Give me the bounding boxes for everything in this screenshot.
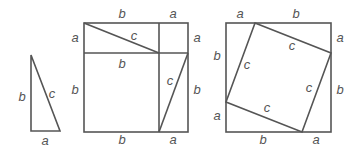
label-hyp-top-c: c (131, 28, 138, 43)
label-right-b: b (336, 82, 343, 97)
label-inner-c-left: c (244, 57, 251, 72)
label-left-a: a (71, 30, 78, 45)
label-left-a: a (213, 108, 220, 123)
label-inner-c-bottom: c (264, 100, 271, 115)
triangle-label-a: a (41, 133, 48, 148)
outer-square (226, 23, 331, 132)
triangle-shape (31, 55, 60, 131)
label-top-a: a (236, 6, 243, 21)
square-c2: a b b a a b b a c c c c (213, 6, 343, 147)
label-inner-c-right: c (306, 80, 313, 95)
label-bottom-a: a (312, 132, 319, 147)
label-right-a: a (193, 30, 200, 45)
pythagorean-diagram: b c a b a a b a b b a c b c a b b a a b … (0, 0, 361, 155)
label-left-b: b (213, 48, 220, 63)
label-bottom-b: b (118, 132, 125, 147)
label-top-b: b (118, 6, 125, 21)
label-left-b: b (71, 82, 78, 97)
right-triangle: b c a (18, 55, 60, 148)
square-a2-b2: b a a b a b b a c b c (71, 6, 200, 147)
label-right-b: b (193, 82, 200, 97)
label-inner-c-top: c (289, 38, 296, 53)
label-bottom-b: b (259, 132, 266, 147)
label-hyp-right-c: c (167, 73, 174, 88)
hypotenuse-top (84, 23, 159, 53)
label-top-a: a (169, 6, 176, 21)
hypotenuse-right (159, 53, 188, 132)
triangle-label-b: b (18, 89, 25, 104)
label-top-b: b (292, 6, 299, 21)
label-bottom-a: a (169, 132, 176, 147)
inner-tilted-square (226, 23, 331, 132)
label-right-a: a (336, 30, 343, 45)
triangle-label-c: c (49, 86, 56, 101)
label-middle-b: b (118, 56, 125, 71)
